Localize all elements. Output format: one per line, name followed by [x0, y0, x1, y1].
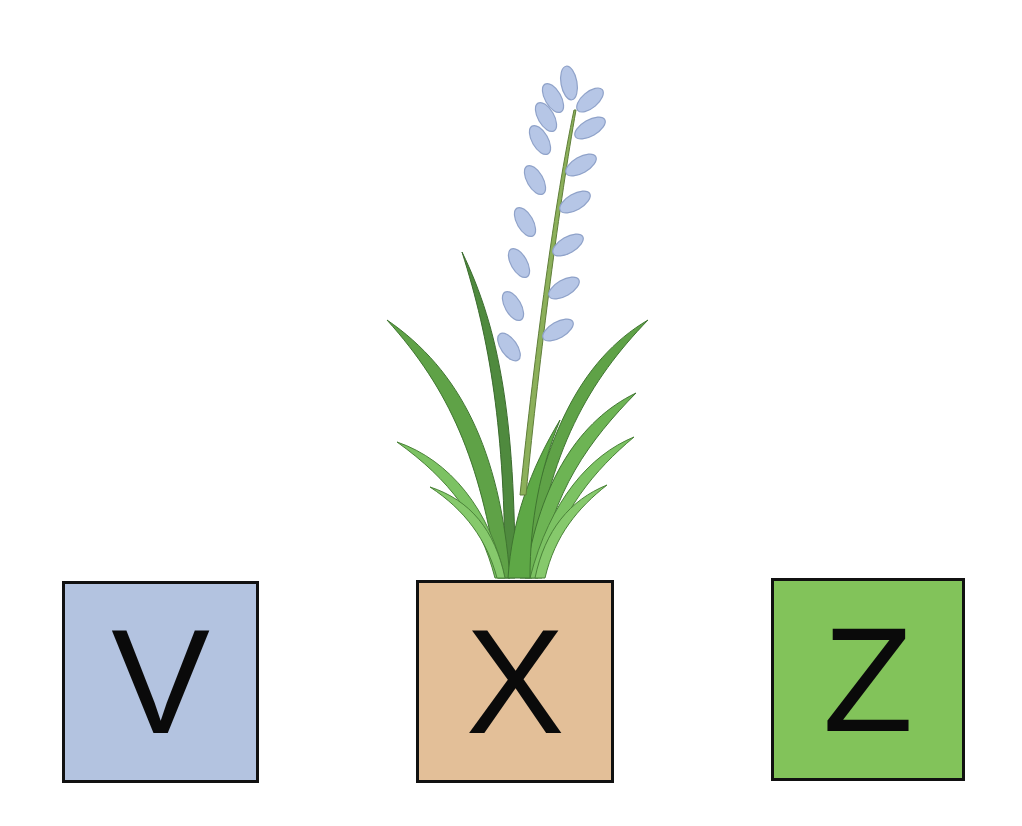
box-z: Z: [771, 578, 965, 781]
box-label-v: V: [111, 608, 210, 756]
flower-buds: [493, 65, 608, 365]
box-x: X: [416, 580, 614, 783]
box-v: V: [62, 581, 259, 783]
box-label-x: X: [466, 608, 565, 756]
box-label-z: Z: [823, 606, 913, 754]
